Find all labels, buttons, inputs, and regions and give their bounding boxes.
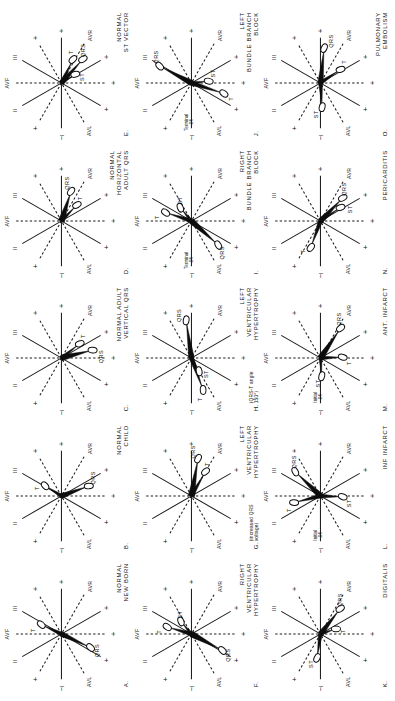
- vector-loop-t: [40, 481, 50, 492]
- axis-label-avf: AVF: [134, 215, 140, 226]
- axis-label-ii: II: [142, 246, 148, 250]
- axis-label-i: I: [59, 547, 65, 549]
- polarity-plus-avr: +: [161, 539, 170, 543]
- polarity-plus-avf: +: [239, 494, 248, 498]
- polarity-plus-avf: +: [369, 356, 378, 360]
- polarity-plus-iii: +: [232, 520, 241, 524]
- vector-label-qrs: QRS: [176, 309, 182, 322]
- polarity-plus-i: +: [316, 304, 325, 308]
- panel-i: IIIIIIAVRAVLAVF++++++−QRSTSTTerminal.04I…: [134, 144, 264, 282]
- vector-qrs: [189, 218, 216, 243]
- axis-label-ii: II: [272, 522, 278, 526]
- polarity-plus-iii: +: [102, 658, 111, 662]
- axis-label-avf: AVF: [264, 491, 270, 502]
- axis-label-avf: AVF: [4, 215, 10, 226]
- polarity-plus-avf: +: [109, 632, 118, 636]
- polarity-plus-avr: +: [290, 126, 299, 130]
- polarity-plus-avf: +: [109, 81, 118, 85]
- vector-loop-t: [290, 500, 299, 506]
- vector-loop-t: [200, 386, 206, 395]
- vector-label-t: T: [30, 628, 36, 632]
- axis-label-avr: AVR: [217, 305, 223, 317]
- vector-note: Terminal.04: [183, 251, 193, 268]
- polarity-plus-avr: +: [161, 677, 170, 681]
- panel-caption: RIGHTBUNDLE BRANCHBLOCK: [239, 150, 259, 210]
- axis-label-iii: III: [142, 330, 148, 336]
- polarity-plus-ii: +: [102, 606, 111, 610]
- polarity-plus-iii: +: [232, 245, 241, 249]
- axis-label-avf: AVF: [4, 77, 10, 88]
- panel-n: IIIIIIAVRAVLAVF++++++−QRSTSTN.PERICARDIT…: [263, 144, 393, 282]
- polarity-plus-iii: +: [232, 382, 241, 386]
- polarity-plus-avf: +: [239, 632, 248, 636]
- vector-label-st: ST: [79, 73, 85, 81]
- panel-id: E.: [122, 129, 129, 136]
- axis-label-iii: III: [12, 330, 18, 336]
- polarity-plus-avl: +: [161, 311, 170, 315]
- polarity-plus-avf: +: [109, 356, 118, 360]
- polarity-plus-avl: +: [161, 587, 170, 591]
- polarity-plus-avr: +: [290, 401, 299, 405]
- axis-label-avf: AVF: [134, 629, 140, 640]
- polarity-minus-i: −: [316, 411, 325, 415]
- axis-label-avr: AVR: [87, 580, 93, 592]
- polarity-plus-avr: +: [290, 539, 299, 543]
- panel-h: IIIIIIAVRAVLAVF++++++−QRSTSTH.LEFTVENTRI…: [134, 282, 264, 420]
- axis-label-ii: II: [142, 384, 148, 388]
- panel-e: IIIIIIAVRAVLAVF++++++−QRSTSTE.NORMALST V…: [4, 6, 134, 144]
- axis-label-i: I: [189, 272, 195, 274]
- polarity-plus-avr: +: [31, 677, 40, 681]
- vector-label-t: T: [154, 215, 160, 219]
- axis-label-avr: AVR: [87, 443, 93, 455]
- polarity-plus-avf: +: [369, 81, 378, 85]
- panel-id: N.: [382, 267, 389, 274]
- vector-label-st: ST: [203, 370, 209, 378]
- polarity-plus-iii: +: [232, 107, 241, 111]
- vector-label-qrs: QRS: [219, 246, 225, 259]
- axis-label-avr: AVR: [346, 443, 352, 455]
- axis-label-iii: III: [272, 468, 278, 474]
- panel-id: O.: [382, 129, 389, 136]
- axis-label-ii: II: [12, 109, 18, 113]
- polarity-plus-avr: +: [161, 401, 170, 405]
- axis-label-avr: AVR: [217, 443, 223, 455]
- vector-qrs: [60, 632, 88, 647]
- axis-label-i: I: [189, 547, 195, 549]
- polarity-plus-i: +: [187, 304, 196, 308]
- polarity-plus-avf: +: [369, 218, 378, 222]
- axis-label-avf: AVF: [264, 629, 270, 640]
- axis-label-avf: AVF: [4, 629, 10, 640]
- vector-label-qrs: QRS: [64, 176, 70, 189]
- axis-label-avr: AVR: [87, 29, 93, 41]
- polarity-plus-avr: +: [31, 539, 40, 543]
- polarity-plus-ii: +: [232, 330, 241, 334]
- polarity-plus-avl: +: [161, 35, 170, 39]
- figure-plate: IIIIIIAVRAVLAVF++++++−QRSTA.NORMALNEW BO…: [0, 0, 395, 701]
- vector-qrs: [186, 323, 194, 358]
- panel-caption: NORMALHORIZONTALADULT QRS: [109, 150, 129, 195]
- axis-label-i: I: [59, 410, 65, 412]
- polarity-plus-avr: +: [31, 401, 40, 405]
- polarity-plus-ii: +: [102, 330, 111, 334]
- polarity-plus-avl: +: [290, 449, 299, 453]
- polarity-plus-i: +: [187, 580, 196, 584]
- vector-label-qrs: QRS: [98, 350, 104, 363]
- vector-label-qrs: QRS: [190, 445, 196, 458]
- vector-loop-t: [200, 467, 211, 477]
- polarity-plus-avl: +: [290, 173, 299, 177]
- polarity-plus-avf: +: [109, 218, 118, 222]
- axis-label-i: I: [319, 272, 325, 274]
- polarity-plus-ii: +: [362, 606, 371, 610]
- polarity-plus-avr: +: [290, 264, 299, 268]
- vector-label-qrs: QRS: [94, 644, 100, 657]
- polarity-plus-ii: +: [362, 55, 371, 59]
- axis-label-avl: AVL: [216, 125, 222, 136]
- axis-label-avl: AVL: [345, 125, 351, 136]
- panel-caption: INF INFARCT: [383, 425, 389, 469]
- axis-label-avf: AVF: [264, 353, 270, 364]
- axis-label-avr: AVR: [87, 167, 93, 179]
- vector-label-qrs: QRS: [152, 50, 158, 63]
- axis-label-ii: II: [272, 660, 278, 664]
- polarity-plus-iii: +: [102, 245, 111, 249]
- panel-caption: NORMAL ADULTVERTICAL QRS: [116, 288, 129, 342]
